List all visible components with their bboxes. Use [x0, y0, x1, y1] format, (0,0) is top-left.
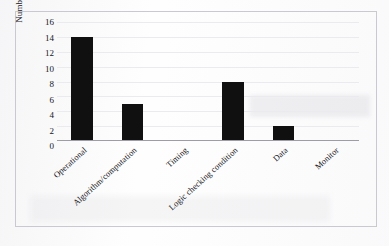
- y-axis-tick-label: 4: [50, 111, 55, 120]
- y-axis-tick-label: 12: [45, 49, 54, 58]
- bar-slot: [158, 22, 208, 141]
- y-axis-tick-label: 16: [45, 18, 54, 27]
- x-axis-category-label: Data: [271, 145, 290, 163]
- y-axis-tick-label: 2: [50, 126, 55, 135]
- x-axis-category-labels: OperationalAlgorithm/computationTimingLo…: [57, 143, 359, 225]
- x-label-slot: Logic checking condition: [208, 143, 258, 225]
- plot-area: [57, 22, 359, 141]
- bar: [71, 37, 93, 141]
- chart-figure: Number of Errors 1614121086420 Operation…: [0, 0, 389, 246]
- x-axis-category-label: Operational: [52, 145, 89, 180]
- bar-slot: [258, 22, 308, 141]
- x-label-slot: Algorithm/computation: [107, 143, 157, 225]
- bar-slot: [208, 22, 258, 141]
- y-axis-tick-label: 8: [50, 80, 55, 89]
- y-axis-tick-labels: 1614121086420: [33, 17, 54, 141]
- bar: [122, 104, 144, 141]
- x-axis-category-label: Monitor: [313, 145, 341, 172]
- x-label-slot: Monitor: [309, 143, 359, 225]
- bar-slot: [57, 22, 107, 141]
- bar: [273, 126, 295, 141]
- bars-layer: [57, 22, 359, 141]
- x-axis-category-label: Timing: [164, 145, 190, 169]
- y-axis-tick-label: 14: [45, 33, 54, 42]
- bar: [222, 82, 244, 142]
- y-axis-tick-label: 10: [45, 64, 54, 73]
- x-label-slot: Data: [258, 143, 308, 225]
- x-axis-line: [57, 140, 359, 141]
- bar-slot: [309, 22, 359, 141]
- bar-slot: [107, 22, 157, 141]
- y-axis-title: Number of Errors: [14, 0, 28, 42]
- y-axis-tick-label: 6: [50, 95, 55, 104]
- y-axis-tick-label: 0: [50, 142, 55, 151]
